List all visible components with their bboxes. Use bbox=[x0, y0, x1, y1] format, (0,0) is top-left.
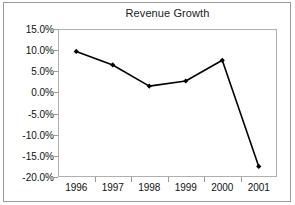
data-point-marker bbox=[74, 49, 79, 54]
chart-figure: Revenue Growth 15.0%10.0%5.0%0.0%-5.0%-1… bbox=[0, 0, 295, 205]
data-series-layer bbox=[0, 0, 295, 205]
data-point-marker bbox=[256, 164, 261, 169]
series-line bbox=[76, 51, 259, 166]
